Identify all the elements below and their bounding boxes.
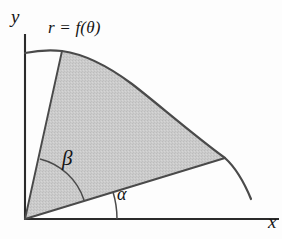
y-axis-label: y [11, 7, 19, 26]
x-axis-label: x [268, 212, 276, 231]
alpha-angle-label: α [117, 185, 126, 203]
polar-region-figure: y x r = f(θ) β α [0, 0, 282, 239]
polar-curve-equation-label: r = f(θ) [48, 19, 101, 36]
beta-angle-label: β [62, 148, 72, 169]
figure-canvas [0, 0, 282, 239]
